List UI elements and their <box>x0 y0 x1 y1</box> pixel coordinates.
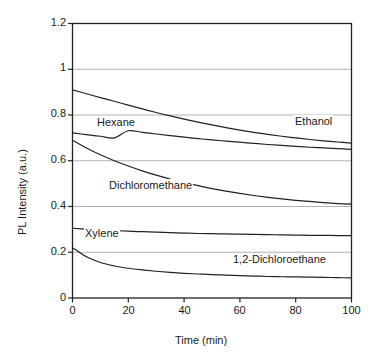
series-label-dichloromethane: Dichloromethane <box>108 179 193 191</box>
x-tick-marks-group <box>73 298 352 303</box>
x-tick-label-80: 80 <box>281 305 310 316</box>
y-axis-title: PL Intensity (a.u.) <box>16 149 28 235</box>
y-tick-label-0.6: 0.6 <box>36 154 66 165</box>
x-tick-label-40: 40 <box>170 305 199 316</box>
series-label-hexane: Hexane <box>96 116 136 128</box>
x-tick-label-60: 60 <box>225 305 254 316</box>
series-line-dichloromethane <box>73 140 352 204</box>
y-tick-label-0: 0 <box>36 292 66 303</box>
chart-figure: 1.2 1 0.8 0.6 0.4 0.2 0 0 20 40 60 80 10… <box>0 0 381 363</box>
x-tick-label-20: 20 <box>114 305 143 316</box>
y-tick-label-0.8: 0.8 <box>36 108 66 119</box>
y-tick-label-0.4: 0.4 <box>36 200 66 211</box>
y-tick-label-0.2: 0.2 <box>36 246 66 257</box>
y-tick-marks-group <box>68 24 73 299</box>
x-tick-label-100: 100 <box>337 305 366 316</box>
y-tick-label-1: 1 <box>36 62 66 73</box>
y-tick-label-1.2: 1.2 <box>36 17 66 28</box>
x-axis-title: Time (min) <box>175 334 227 346</box>
series-label-xylene: Xylene <box>84 227 120 239</box>
series-label-ethanol: Ethanol <box>294 115 333 127</box>
x-tick-label-0: 0 <box>58 305 87 316</box>
series-label-12-dichloroethane: 1,2-Dichloroethane <box>232 253 327 265</box>
